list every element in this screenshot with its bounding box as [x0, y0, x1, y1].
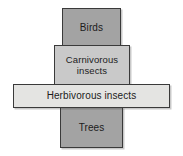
- pyramid-tier-carnivorous-insects-label: Carnivorous insects: [55, 55, 129, 76]
- pyramid-tier-trees-label: Trees: [76, 122, 108, 133]
- trophic-pyramid-diagram: Birds Carnivorous insects Trees Herbivor…: [0, 0, 183, 156]
- pyramid-tier-herbivorous-insects-label: Herbivorous insects: [44, 90, 140, 101]
- pyramid-tier-carnivorous-insects: Carnivorous insects: [54, 45, 130, 86]
- pyramid-tier-herbivorous-insects: Herbivorous insects: [13, 84, 170, 108]
- pyramid-tier-birds-label: Birds: [77, 22, 106, 33]
- pyramid-tier-birds: Birds: [62, 8, 121, 47]
- pyramid-tier-trees: Trees: [60, 107, 123, 148]
